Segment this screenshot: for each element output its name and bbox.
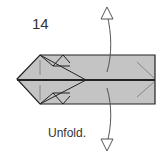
step-number: 14 bbox=[32, 15, 49, 32]
step-caption: Unfold. bbox=[48, 126, 86, 140]
folded-model bbox=[17, 55, 155, 104]
